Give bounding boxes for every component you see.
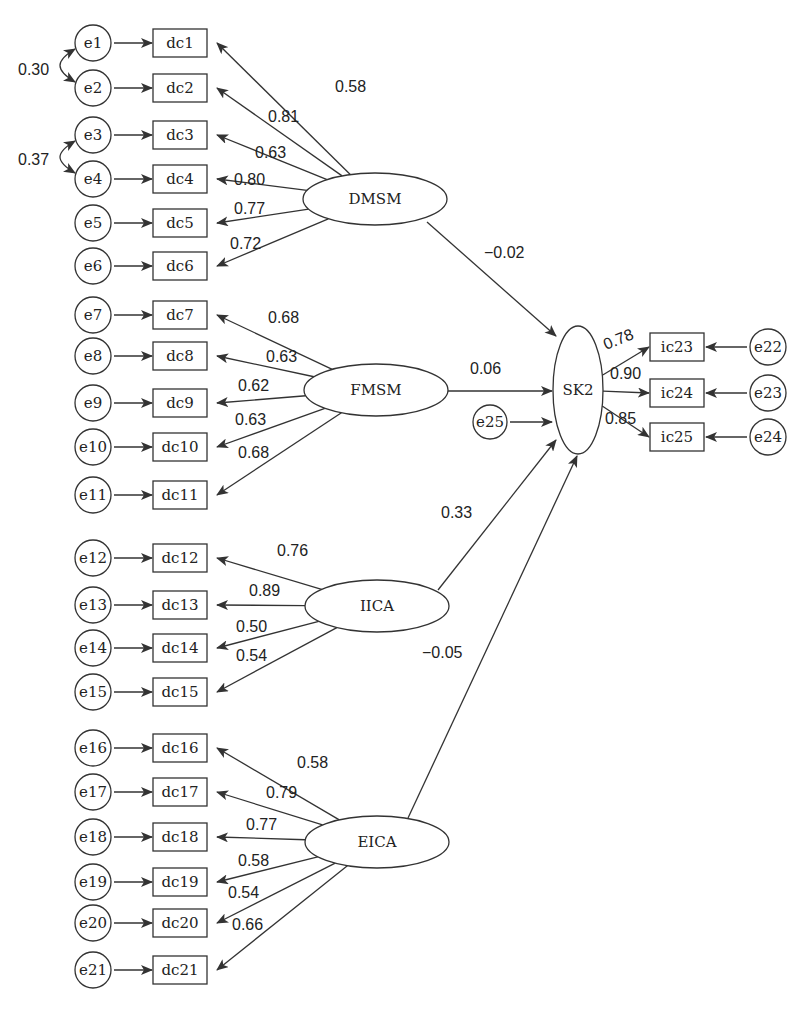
factor-loading-value: 0.76 xyxy=(277,542,308,559)
factor-loading-value: 0.81 xyxy=(268,108,299,125)
factor-loading-value: 0.68 xyxy=(238,444,269,461)
error-term-label: e5 xyxy=(84,214,102,232)
factor-loading-value: 0.54 xyxy=(228,884,259,901)
observed-variable-label: ic25 xyxy=(661,428,693,446)
observed-variable-label: ic24 xyxy=(661,384,693,402)
factor-loading-value: 0.63 xyxy=(266,348,297,365)
error-term-label: e10 xyxy=(79,438,107,456)
observed-variable-label: dc7 xyxy=(166,306,194,324)
factor-loading-value: 0.90 xyxy=(610,365,641,382)
sem-path-diagram: e1dc1e2dc2e3dc3e4dc4e5dc5e6dc6e7dc7e8dc8… xyxy=(0,0,807,1025)
error-term-label: e20 xyxy=(79,914,107,932)
factor-loading-value: 0.66 xyxy=(232,916,263,933)
observed-variable-label: dc14 xyxy=(161,639,198,657)
loading-path-IICA-dc15 xyxy=(217,628,337,692)
observed-variable-label: dc17 xyxy=(161,783,198,801)
path-coefficient-value: 0.06 xyxy=(470,360,501,377)
observed-variable-label: dc1 xyxy=(166,34,194,52)
factor-loading-value: 0.79 xyxy=(266,784,297,801)
factor-loading-value: 0.72 xyxy=(230,235,261,252)
observed-variable-label: dc8 xyxy=(166,347,194,365)
error-term-label: e16 xyxy=(79,739,107,757)
observed-variable-label: dc15 xyxy=(161,683,198,701)
observed-variable-label: dc10 xyxy=(161,438,198,456)
observed-variable-label: dc9 xyxy=(166,394,194,412)
factor-loading-value: 0.50 xyxy=(236,618,267,635)
error-term-label: e4 xyxy=(84,170,102,188)
error-term-label: e24 xyxy=(754,428,782,446)
error-term-label: e8 xyxy=(84,347,102,365)
factor-loading-value: 0.54 xyxy=(236,647,267,664)
error-term-label: e13 xyxy=(79,596,107,614)
error-term-label: e2 xyxy=(84,79,102,97)
error-term-label: e11 xyxy=(79,486,107,504)
path-coefficient-value: −0.02 xyxy=(484,244,525,261)
observed-variable-label: ic23 xyxy=(661,338,693,356)
observed-variable-label: dc18 xyxy=(161,828,198,846)
observed-variable-label: dc20 xyxy=(161,914,198,932)
observed-variable-label: dc6 xyxy=(166,257,194,275)
latent-variable-label: EICA xyxy=(357,833,396,851)
observed-variable-label: dc11 xyxy=(161,486,198,504)
error-term-label: e1 xyxy=(84,34,102,52)
loading-path-IICA-dc13 xyxy=(217,605,305,606)
factor-loading-value: 0.58 xyxy=(297,754,328,771)
factor-loading-value: 0.58 xyxy=(238,852,269,869)
factor-loading-value: 0.89 xyxy=(249,582,280,599)
observed-variable-label: dc12 xyxy=(161,549,198,567)
factor-loading-value: 0.85 xyxy=(605,410,636,427)
factor-loading-value: 0.63 xyxy=(235,411,266,428)
observed-variable-label: dc13 xyxy=(161,596,198,614)
error-term-label: e18 xyxy=(79,828,107,846)
loading-path-DMSM-dc2 xyxy=(217,88,342,176)
observed-variable-label: dc2 xyxy=(166,79,194,97)
latent-variable-label: IICA xyxy=(360,597,394,615)
residual-label: e25 xyxy=(476,413,504,431)
loading-path-EICA-dc18 xyxy=(217,837,305,840)
nodes-layer: e1dc1e2dc2e3dc3e4dc4e5dc5e6dc6e7dc7e8dc8… xyxy=(75,25,786,988)
latent-variable-label: DMSM xyxy=(348,190,401,208)
factor-loading-value: 0.68 xyxy=(268,309,299,326)
error-term-label: e6 xyxy=(84,257,102,275)
factor-loading-value: 0.80 xyxy=(234,171,265,188)
observed-variable-label: dc19 xyxy=(161,873,198,891)
path-coefficient-value: 0.33 xyxy=(441,504,472,521)
observed-variable-label: dc4 xyxy=(166,170,194,188)
error-term-label: e14 xyxy=(79,639,107,657)
structural-path-dmsm-to-sk2 xyxy=(427,222,556,336)
factor-loading-value: 0.77 xyxy=(234,200,265,217)
error-term-label: e15 xyxy=(79,683,107,701)
path-coefficient-value: −0.05 xyxy=(422,644,463,661)
error-term-label: e12 xyxy=(79,549,107,567)
error-term-label: e21 xyxy=(79,961,107,979)
observed-variable-label: dc5 xyxy=(166,214,194,232)
factor-loading-value: 0.58 xyxy=(335,78,366,95)
factor-loading-value: 0.62 xyxy=(238,377,269,394)
loading-path-FMSM-dc9 xyxy=(217,396,306,403)
factor-loading-value: 0.78 xyxy=(601,325,636,352)
covariance-value: 0.30 xyxy=(18,61,49,78)
loading-path-SK2-ic24 xyxy=(603,391,649,393)
error-term-label: e17 xyxy=(79,783,107,801)
error-term-label: e22 xyxy=(754,338,782,356)
latent-variable-label: FMSM xyxy=(350,381,401,399)
observed-variable-label: dc3 xyxy=(166,126,194,144)
error-term-label: e19 xyxy=(79,873,107,891)
latent-variable-label: SK2 xyxy=(562,381,593,399)
diagram-canvas: e1dc1e2dc2e3dc3e4dc4e5dc5e6dc6e7dc7e8dc8… xyxy=(0,0,807,1025)
error-term-label: e23 xyxy=(754,384,782,402)
loading-path-FMSM-dc10 xyxy=(217,408,325,447)
loading-path-IICA-dc14 xyxy=(217,621,319,648)
error-term-label: e9 xyxy=(84,394,102,412)
factor-loading-value: 0.77 xyxy=(246,816,277,833)
observed-variable-label: dc21 xyxy=(161,961,198,979)
error-term-label: e7 xyxy=(84,306,102,324)
error-term-label: e3 xyxy=(84,126,102,144)
covariance-arc-e1-e2 xyxy=(60,49,75,82)
structural-path-eica-to-sk2 xyxy=(408,456,577,818)
covariance-value: 0.37 xyxy=(18,151,49,168)
observed-variable-label: dc16 xyxy=(161,739,198,757)
factor-loading-value: 0.63 xyxy=(255,144,286,161)
covariance-arc-e3-e4 xyxy=(60,141,75,173)
